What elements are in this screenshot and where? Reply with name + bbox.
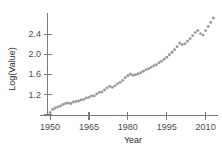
x-tick-label: 1965	[79, 122, 99, 132]
data-point	[142, 70, 145, 73]
y-tick-labels: 1.21.62.02.4	[28, 29, 41, 99]
x-axis: 19501965198019952010	[40, 112, 218, 133]
data-point	[69, 102, 72, 105]
data-point	[56, 106, 59, 109]
data-point	[82, 98, 85, 101]
data-point	[212, 17, 215, 20]
data-point	[155, 63, 158, 66]
data-point	[194, 31, 197, 34]
data-point	[176, 45, 179, 48]
data-point	[54, 107, 57, 110]
y-axis: 1.21.62.02.4	[28, 13, 51, 114]
data-series	[49, 17, 215, 114]
data-point	[98, 91, 101, 94]
x-tick-labels: 19501965198019952010	[40, 122, 216, 132]
data-point	[207, 25, 210, 28]
data-point	[75, 100, 78, 103]
y-axis-title: Log(Value)	[7, 47, 17, 90]
data-point	[163, 58, 166, 61]
data-point	[64, 102, 67, 105]
data-point	[51, 108, 54, 111]
data-point	[95, 92, 98, 95]
data-point	[186, 40, 189, 43]
data-point	[158, 61, 161, 64]
data-point	[129, 73, 132, 76]
data-point	[139, 71, 142, 74]
x-axis-title: Year	[124, 135, 142, 145]
y-tick-label: 1.6	[28, 69, 41, 79]
data-point	[113, 84, 116, 87]
x-tick-label: 2010	[196, 122, 216, 132]
data-point	[124, 76, 127, 79]
data-point	[126, 74, 129, 77]
data-point	[100, 90, 103, 93]
data-point	[196, 29, 199, 32]
data-point	[49, 111, 52, 114]
data-point	[72, 100, 75, 103]
data-point	[145, 68, 148, 71]
x-tick-label: 1980	[118, 122, 138, 132]
y-tick-label: 1.2	[28, 90, 41, 100]
data-point	[111, 86, 114, 89]
data-point	[178, 42, 181, 45]
data-point	[119, 81, 122, 84]
data-point	[67, 101, 70, 104]
data-point	[103, 88, 106, 91]
chart-figure: 1.21.62.02.4 19501965198019952010 Log(Va…	[0, 0, 222, 152]
data-point	[181, 43, 184, 46]
data-point	[59, 105, 62, 108]
data-point	[199, 32, 202, 35]
data-point	[62, 103, 65, 106]
data-point	[191, 34, 194, 37]
data-point	[90, 94, 93, 97]
data-point	[147, 67, 150, 70]
data-point	[116, 82, 119, 85]
data-point	[134, 73, 137, 76]
data-point	[204, 29, 207, 32]
data-point	[209, 21, 212, 24]
data-point	[88, 96, 91, 99]
y-tick-label: 2.0	[28, 49, 41, 59]
x-tick-label: 1950	[40, 122, 60, 132]
data-point	[189, 37, 192, 40]
data-point	[137, 72, 140, 75]
data-point	[93, 94, 96, 97]
data-point	[108, 85, 111, 88]
scatter-plot: 1.21.62.02.4 19501965198019952010 Log(Va…	[0, 0, 222, 152]
data-point	[168, 53, 171, 56]
data-point	[173, 48, 176, 51]
data-point	[77, 99, 80, 102]
data-point	[165, 56, 168, 59]
data-point	[80, 98, 83, 101]
data-point	[152, 64, 155, 67]
data-point	[121, 79, 124, 82]
data-point	[132, 74, 135, 77]
y-tick-label: 2.4	[28, 29, 41, 39]
data-point	[170, 51, 173, 54]
data-point	[160, 60, 163, 63]
data-point	[202, 34, 205, 37]
data-point	[150, 66, 153, 69]
x-tick-label: 1995	[157, 122, 177, 132]
data-point	[85, 96, 88, 99]
data-point	[106, 86, 109, 89]
data-point	[183, 42, 186, 45]
